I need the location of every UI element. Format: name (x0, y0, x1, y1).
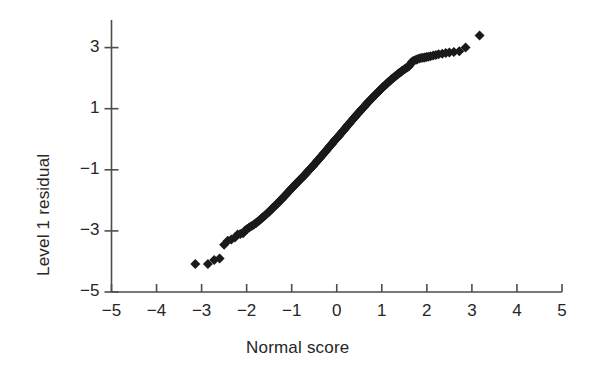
x-axis-label: Normal score (246, 338, 349, 358)
axes-group (105, 20, 563, 292)
y-axis-label: Level 1 residual (34, 154, 54, 276)
y-tick-label: 3 (64, 37, 100, 57)
y-tick-label: −5 (64, 281, 100, 301)
x-tick-label: 1 (362, 301, 402, 321)
x-tick-label: 4 (497, 301, 537, 321)
x-tick-label: 5 (542, 301, 582, 321)
qq-plot-figure: −5−4−3−2−1012345 31−1−3−5 Level 1 residu… (0, 0, 592, 370)
y-tick-label: 1 (64, 98, 100, 118)
x-tick-label: −1 (272, 301, 312, 321)
x-tick-label: 2 (407, 301, 447, 321)
y-tick-label: −1 (64, 159, 100, 179)
x-tick-label: 3 (452, 301, 492, 321)
data-points-group (190, 30, 484, 269)
x-tick-label: −2 (227, 301, 267, 321)
data-point (190, 259, 200, 269)
x-tick-label: −4 (137, 301, 177, 321)
x-tick-label: 0 (317, 301, 357, 321)
data-point (475, 30, 485, 40)
x-tick-label: −5 (92, 301, 132, 321)
y-tick-label: −3 (64, 220, 100, 240)
x-tick-label: −3 (182, 301, 222, 321)
